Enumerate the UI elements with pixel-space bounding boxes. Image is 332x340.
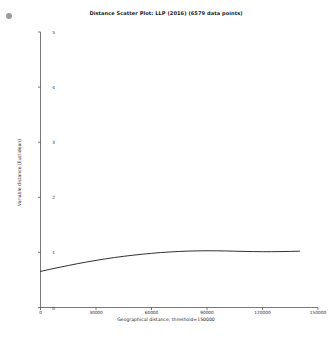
y-tick-label: 4 bbox=[52, 85, 55, 90]
data-line-series bbox=[41, 251, 300, 272]
x-tick-label: 150000 bbox=[310, 310, 326, 315]
chart-figure: Distance Scatter Plot: LLP (2016) (6579 … bbox=[0, 0, 332, 340]
plot-area bbox=[0, 0, 332, 340]
y-tick-label: 3 bbox=[52, 140, 55, 145]
x-tick-label: 90000 bbox=[200, 310, 214, 315]
x-tick-label: 0 bbox=[39, 310, 42, 315]
y-tick-label: 2 bbox=[52, 195, 55, 200]
y-axis-label: Variable distance (Euclidean) bbox=[17, 118, 22, 228]
y-tick-label: 5 bbox=[52, 30, 55, 35]
x-axis-label: Geographical distance; threshold=150000 bbox=[0, 317, 332, 322]
y-tick-label: 1 bbox=[52, 250, 55, 255]
x-tick-label: 60000 bbox=[145, 310, 159, 315]
x-tick-label: 30000 bbox=[89, 310, 103, 315]
y-tick-label: 0 bbox=[52, 305, 55, 310]
x-tick-label: 120000 bbox=[254, 310, 270, 315]
